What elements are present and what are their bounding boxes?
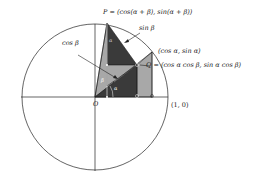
arrowhead <box>124 39 129 43</box>
label-alpha-point: (cos α, sin α) <box>158 47 201 55</box>
label-q: Q = (cos α cos β, sin α cos β) <box>146 61 241 69</box>
triangle-q-alpha-light <box>137 52 152 97</box>
label-sin-beta: sin β <box>139 24 154 32</box>
label-one-zero: (1, 0) <box>171 101 188 109</box>
label-cos-beta: cos β <box>62 39 79 47</box>
point-marker <box>106 64 108 66</box>
label-angle-beta: β <box>101 77 104 83</box>
label-p: P = (cos(α + β), sin(α + β)) <box>103 8 192 16</box>
label-origin: O <box>93 100 98 108</box>
label-angle-alpha-top: α <box>109 37 112 43</box>
unit-circle-diagram <box>0 0 253 185</box>
point-marker <box>106 96 108 98</box>
label-angle-alpha: α <box>114 85 117 91</box>
